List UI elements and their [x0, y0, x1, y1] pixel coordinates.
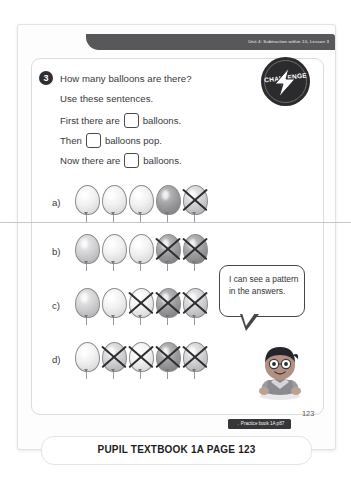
balloon: [181, 183, 208, 225]
balloon: [181, 340, 208, 382]
balloon: [127, 232, 154, 274]
balloon-string: [113, 215, 114, 222]
balloon-body: [129, 342, 154, 372]
balloon-string: [86, 372, 87, 379]
balloon: [73, 232, 100, 274]
balloon-string: [140, 215, 141, 222]
sentence-text-after: balloons pop.: [105, 135, 162, 146]
balloon-body: [156, 185, 181, 215]
balloon-row-label: c): [52, 300, 60, 311]
balloon-body: [102, 234, 127, 264]
balloon-body: [156, 342, 181, 372]
balloon: [154, 232, 181, 274]
speech-bubble-text: I can see a pattern in the answers.: [229, 273, 299, 297]
balloon-row-label: a): [52, 197, 61, 208]
question-title: How many balloons are there?: [60, 73, 192, 84]
balloon: [154, 340, 181, 382]
practice-book-tag[interactable]: → Practice book 1A p87: [228, 419, 291, 429]
balloon: [127, 286, 154, 328]
balloon-body: [156, 288, 181, 318]
balloon: [154, 183, 181, 225]
balloon-string: [140, 264, 141, 271]
balloon: [154, 286, 181, 328]
balloon-string: [113, 264, 114, 271]
balloon: [100, 286, 127, 328]
balloon-body: [102, 288, 127, 318]
balloon-string: [167, 215, 168, 222]
balloon-body: [75, 185, 100, 215]
page-number: 123: [302, 409, 314, 418]
balloon-string: [86, 215, 87, 222]
balloon: [100, 183, 127, 225]
balloon-string: [167, 372, 168, 379]
balloon: [127, 340, 154, 382]
pupil-character: [252, 341, 308, 401]
balloon-string: [86, 318, 87, 325]
balloon-string: [194, 215, 195, 222]
sentence-row: Now there are balloons.: [60, 153, 182, 168]
speech-bubble: I can see a pattern in the answers.: [219, 265, 305, 317]
unit-banner: Unit 4: Subtraction within 10, Lesson 3: [86, 34, 335, 50]
lightning-bolt-icon: [269, 66, 302, 99]
instruction-line: Use these sentences.: [60, 93, 153, 104]
question-number: 3: [39, 71, 53, 85]
balloon-body: [75, 288, 100, 318]
balloon-row-label: b): [52, 246, 61, 257]
balloon: [73, 340, 100, 382]
balloon-strip: [73, 286, 208, 328]
balloon-body: [183, 288, 208, 318]
balloon: [100, 232, 127, 274]
sentence-row: Then balloons pop.: [60, 133, 162, 148]
balloon: [181, 286, 208, 328]
balloon-body: [129, 185, 154, 215]
balloon: [73, 286, 100, 328]
balloon-string: [140, 318, 141, 325]
balloon-body: [129, 234, 154, 264]
balloon-string: [140, 372, 141, 379]
challenge-badge: CHALLENGE ZONE: [261, 57, 310, 106]
balloon-body: [129, 288, 154, 318]
speech-bubble-tail: [240, 314, 259, 331]
sentence-text-before: Then: [60, 135, 82, 146]
answer-box[interactable]: [124, 153, 139, 168]
balloon: [73, 183, 100, 225]
viewport-divider: [0, 222, 351, 223]
balloon-string: [194, 318, 195, 325]
sentence-text-after: balloons.: [143, 155, 181, 166]
balloon-string: [167, 318, 168, 325]
caption-text: PUPIL TEXTBOOK 1A PAGE 123: [42, 444, 311, 455]
balloon-body: [183, 185, 208, 215]
balloon-body: [102, 185, 127, 215]
balloon: [100, 340, 127, 382]
sentence-text-after: balloons.: [143, 115, 181, 126]
balloon-strip: [73, 232, 208, 274]
balloon-string: [86, 264, 87, 271]
balloon-strip: [73, 183, 208, 225]
balloon-body: [183, 234, 208, 264]
balloon: [127, 183, 154, 225]
answer-box[interactable]: [86, 133, 101, 148]
balloon: [181, 232, 208, 274]
caption-bar: PUPIL TEXTBOOK 1A PAGE 123: [41, 436, 312, 465]
balloon-body: [75, 234, 100, 264]
balloon-body: [75, 342, 100, 372]
unit-banner-text: Unit 4: Subtraction within 10, Lesson 3: [248, 39, 329, 44]
balloon-body: [156, 234, 181, 264]
balloon-string: [194, 264, 195, 271]
balloon-strip: [73, 340, 208, 382]
balloon-string: [113, 318, 114, 325]
balloon-row-label: d): [52, 354, 61, 365]
balloon-string: [113, 372, 114, 379]
balloon-string: [194, 372, 195, 379]
sentence-text-before: First there are: [60, 115, 120, 126]
sentence-row: First there are balloons.: [60, 113, 181, 128]
balloon-string: [167, 264, 168, 271]
balloon-body: [183, 342, 208, 372]
answer-box[interactable]: [124, 113, 139, 128]
sentence-text-before: Now there are: [60, 155, 120, 166]
balloon-body: [102, 342, 127, 372]
